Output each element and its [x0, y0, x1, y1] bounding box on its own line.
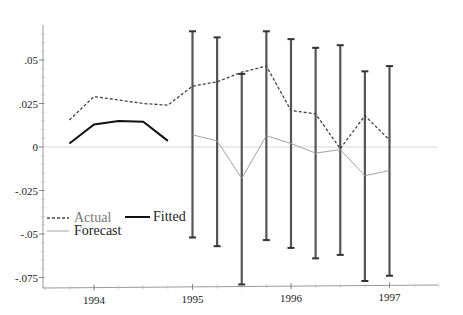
x-tick-label: 1995	[182, 293, 205, 305]
series-fitted-line	[69, 121, 167, 144]
y-tick-label: -.05	[21, 228, 39, 240]
y-tick-label: .05	[24, 54, 38, 66]
y-tick-label: .025	[19, 98, 39, 110]
legend-label-forecast: Forecast	[74, 223, 122, 238]
y-tick-label: 0	[33, 141, 39, 153]
y-tick-label: -.025	[15, 185, 38, 197]
forecast-error-bars	[189, 31, 393, 284]
legend-label-fitted: Fitted	[153, 209, 186, 224]
series-lines	[69, 66, 389, 178]
series-actual-line	[69, 66, 389, 149]
x-tick-label: 1997	[379, 291, 402, 303]
x-tick-label: 1994	[83, 294, 106, 306]
legend: ActualFittedForecast	[47, 209, 186, 238]
forecast-chart: .05.0250-.025-.05-.0751994199519961997 A…	[0, 0, 463, 315]
axes: .05.0250-.025-.05-.0751994199519961997	[15, 25, 439, 306]
y-tick-label: -.075	[15, 272, 38, 284]
x-tick-label: 1996	[280, 292, 303, 304]
